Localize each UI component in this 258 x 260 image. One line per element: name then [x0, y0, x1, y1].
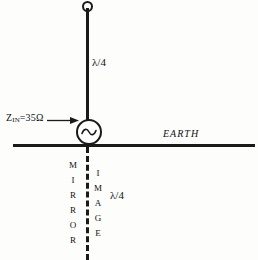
image-letter: G: [95, 211, 102, 226]
mirror-letter: R: [70, 233, 77, 248]
earth-label: EARTH: [163, 128, 199, 139]
mirror-image-dashed-line: [86, 147, 89, 260]
image-letter: I: [97, 166, 101, 181]
mirror-letter: I: [72, 173, 76, 188]
ac-source-symbol: [76, 119, 102, 145]
mirror-letter: R: [70, 203, 77, 218]
impedance-subscript: IN: [12, 116, 19, 124]
earth-ground-line: [13, 144, 255, 147]
lower-quarter-wave-label: λ/4: [110, 189, 124, 201]
upper-quarter-wave-label: λ/4: [92, 56, 106, 68]
image-letter: A: [95, 196, 102, 211]
antenna-diagram: λ/4 ZIN=35Ω EARTH M I R R O R I M A G E …: [0, 0, 258, 260]
impedance-callout-arrow-icon: [47, 116, 79, 125]
mirror-letter: O: [70, 218, 77, 233]
mirror-letter: M: [69, 158, 78, 173]
impedance-value: =35Ω: [20, 112, 44, 123]
mirror-vertical-label: M I R R O R: [69, 158, 78, 248]
antenna-radiator-line: [86, 8, 89, 123]
mirror-letter: R: [70, 188, 77, 203]
input-impedance-label: ZIN=35Ω: [6, 112, 44, 124]
image-vertical-label: I M A G E: [94, 166, 103, 241]
sine-wave-icon: [78, 121, 100, 143]
image-letter: M: [94, 181, 103, 196]
image-letter: E: [95, 226, 101, 241]
